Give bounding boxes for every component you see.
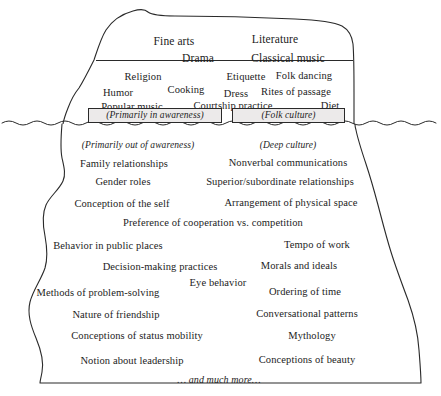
culture-item-rites-of-passage: Rites of passage (261, 87, 331, 98)
culture-item-humor: Humor (103, 88, 133, 99)
culture-item-drama: Drama (182, 53, 214, 65)
culture-item-mythology: Mythology (288, 331, 336, 342)
waterline-box-primarily-in-awareness: (Primarily in awareness) (88, 108, 222, 123)
culture-item-folk-dancing: Folk dancing (276, 71, 332, 82)
culture-item-conception-of-the-self: Conception of the self (74, 199, 169, 210)
culture-item-fine-arts: Fine arts (154, 36, 195, 48)
culture-item-morals-and-ideals: Morals and ideals (261, 261, 337, 272)
culture-item-conversational-patterns: Conversational patterns (256, 309, 358, 320)
culture-item-family-relationships: Family relationships (80, 159, 168, 170)
culture-item-behavior-public-places: Behavior in public places (53, 241, 163, 252)
cultural-iceberg-figure: Fine arts Literature Drama Classical mus… (0, 0, 441, 396)
waterline-label-folk-culture: (Folk culture) (261, 111, 315, 121)
culture-item-religion: Religion (125, 72, 162, 83)
iceberg-artwork (0, 0, 441, 396)
culture-item-cooking: Cooking (168, 85, 205, 96)
waterline-label-primarily-in-awareness: (Primarily in awareness) (106, 111, 204, 121)
culture-item-conceptions-of-beauty: Conceptions of beauty (259, 355, 356, 366)
waterline-box-folk-culture: (Folk culture) (232, 108, 345, 123)
culture-item-eye-behavior: Eye behavior (190, 278, 247, 289)
culture-item-superior-subordinate: Superior/subordinate relationships (206, 177, 354, 188)
footer-and-much-more: … and much more… (177, 375, 261, 385)
caption-deep-culture: (Deep culture) (260, 141, 317, 151)
caption-primarily-out-of-awareness: (Primarily out of awareness) (82, 141, 194, 151)
culture-item-literature: Literature (252, 34, 298, 46)
culture-item-ordering-of-time: Ordering of time (269, 287, 341, 298)
culture-item-etiquette: Etiquette (227, 72, 266, 83)
culture-item-arrangement-physical-space: Arrangement of physical space (224, 198, 357, 209)
culture-item-decision-making-practices: Decision-making practices (103, 262, 218, 273)
culture-item-cooperation-vs-competition: Preference of cooperation vs. competitio… (123, 218, 303, 229)
culture-item-tempo-of-work: Tempo of work (284, 240, 350, 251)
culture-item-gender-roles: Gender roles (95, 177, 150, 188)
culture-item-dress: Dress (224, 89, 248, 100)
culture-item-nature-of-friendship: Nature of friendship (72, 310, 159, 321)
culture-item-nonverbal-communications: Nonverbal communications (229, 158, 348, 169)
culture-item-conceptions-status-mobility: Conceptions of status mobility (71, 331, 203, 342)
culture-item-methods-problem-solving: Methods of problem-solving (37, 288, 160, 299)
culture-item-classical-music: Classical music (251, 53, 324, 65)
culture-item-notion-about-leadership: Notion about leadership (80, 356, 183, 367)
